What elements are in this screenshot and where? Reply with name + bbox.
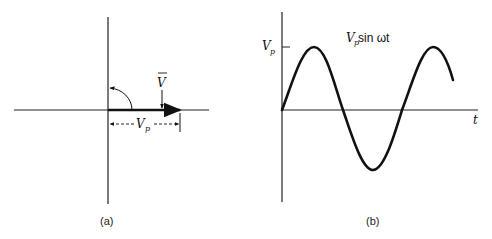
caption-a: (a) (100, 215, 113, 227)
peak-label-subscript: p (270, 47, 275, 56)
caption-b: (b) (366, 215, 379, 227)
curve-label-function: sin ωt (358, 31, 390, 45)
time-axis-label: t (473, 113, 478, 127)
phasor-label: V (157, 76, 167, 90)
phasor-diagram: V V p (a) (14, 17, 209, 227)
rotation-arrow-icon (110, 88, 132, 110)
waveform-plot: V p t V p sin ωt (b) (262, 12, 478, 227)
sine-curve (282, 47, 453, 170)
magnitude-label-subscript: p (145, 124, 150, 133)
